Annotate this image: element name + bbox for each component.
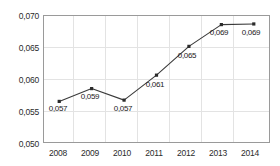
- x-axis-tick-label: 2012: [169, 148, 203, 158]
- data-point-label: 0,059: [81, 92, 100, 101]
- data-point-marker: [220, 23, 223, 26]
- x-axis-tick-label: 2010: [105, 148, 139, 158]
- data-point-label: 0,069: [242, 28, 261, 37]
- data-point-marker: [90, 87, 93, 90]
- data-point-label: 0,065: [178, 51, 197, 60]
- data-point-marker: [187, 45, 190, 48]
- x-axis-tick-label: 2014: [233, 148, 267, 158]
- x-axis-tick-label: 2011: [137, 148, 171, 158]
- data-point-marker: [122, 99, 125, 102]
- x-axis-tick-label: 2008: [41, 148, 75, 158]
- x-axis-tick-label: 2013: [201, 148, 235, 158]
- data-point-label: 0,057: [49, 104, 68, 113]
- x-axis-tick-label: 2009: [73, 148, 107, 158]
- data-point-label: 0,057: [114, 104, 133, 113]
- line-chart: 0,070 0,065 0,060 0,055 0,050 0,057 0,05…: [0, 0, 280, 166]
- data-point-marker: [58, 100, 61, 103]
- data-series: [0, 0, 280, 166]
- data-point-label: 0,061: [146, 80, 165, 89]
- data-point-label: 0,069: [210, 28, 229, 37]
- data-point-marker: [155, 74, 158, 77]
- data-point-marker: [252, 22, 255, 25]
